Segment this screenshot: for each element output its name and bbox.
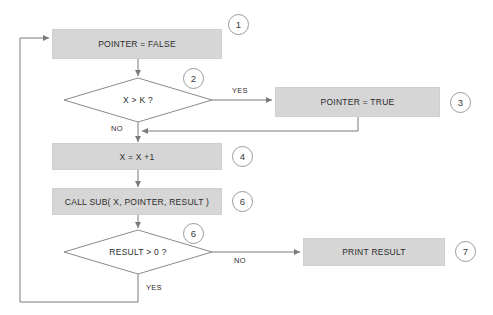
process-node-print-result-label: PRINT RESULT (342, 247, 406, 257)
flowchart-canvas: POINTER = FALSE POINTER = TRUE X = X +1 … (0, 0, 493, 315)
process-node-call-sub-label: CALL SUB( X, POINTER, RESULT ) (65, 197, 209, 207)
callout-6: 6 (183, 223, 204, 244)
edge-label-yes-decision2: YES (146, 283, 162, 292)
edge-label-yes-decision1: YES (232, 86, 248, 95)
callout-2: 2 (183, 68, 204, 89)
callout-4: 4 (232, 146, 253, 167)
process-node-print-result[interactable]: PRINT RESULT (303, 238, 445, 266)
edge-decision2-yes-loopback-to-n1 (20, 38, 138, 302)
process-node-pointer-true[interactable]: POINTER = TRUE (275, 87, 440, 117)
edge-label-no-decision2: NO (234, 256, 246, 265)
process-node-pointer-false-label: POINTER = FALSE (98, 39, 176, 49)
callout-7: 7 (455, 241, 476, 262)
process-node-increment-x-label: X = X +1 (119, 152, 154, 162)
callout-5: 6 (232, 191, 253, 212)
edge-n3-return-to-no-trunk (142, 117, 358, 131)
callout-1: 1 (228, 14, 249, 35)
process-node-pointer-false[interactable]: POINTER = FALSE (52, 29, 222, 59)
process-node-increment-x[interactable]: X = X +1 (52, 143, 222, 170)
callout-3: 3 (450, 92, 471, 113)
process-node-call-sub[interactable]: CALL SUB( X, POINTER, RESULT ) (52, 188, 222, 215)
edge-label-no-decision1: NO (111, 124, 123, 133)
process-node-pointer-true-label: POINTER = TRUE (321, 97, 395, 107)
